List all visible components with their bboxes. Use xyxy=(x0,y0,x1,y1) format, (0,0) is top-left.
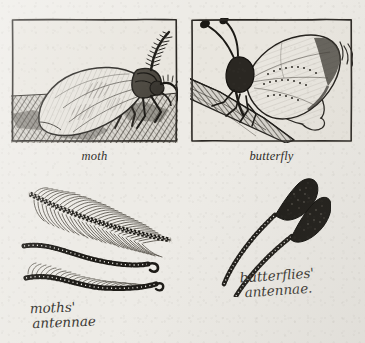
butterfly-body xyxy=(226,57,254,92)
pectinate-shaft-beads xyxy=(26,277,156,289)
field-guide-page: moth xyxy=(0,0,365,343)
label-moths-antennae: moths' antennae xyxy=(29,299,96,331)
filiform-hook-tip xyxy=(148,263,158,272)
moth-illustration xyxy=(11,18,178,143)
plate-caption-butterfly: butterfly xyxy=(190,149,353,164)
label-butterflies-antennae: butterflies' antennae. xyxy=(239,265,316,300)
label-butterflies-line2: antennae. xyxy=(240,280,315,300)
butterfly-illustration xyxy=(190,18,353,143)
moth-antennae-diagram xyxy=(18,178,198,303)
plate-moth xyxy=(11,18,178,143)
plate-butterfly xyxy=(190,18,353,143)
plate-caption-moth: moth xyxy=(11,149,178,164)
label-moths-line2: antennae xyxy=(30,314,96,332)
